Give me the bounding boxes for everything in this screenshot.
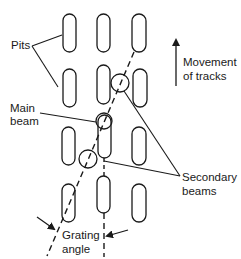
pits-leader-lower	[32, 46, 58, 87]
pit	[63, 69, 76, 107]
diagram-graphics	[0, 0, 241, 259]
pit	[132, 14, 146, 52]
secondary-beam-leader-lower	[104, 161, 180, 176]
grating-line-angled	[47, 52, 134, 256]
pit	[97, 176, 110, 213]
pit	[63, 14, 76, 52]
movement-label-line1: Movement	[183, 55, 237, 69]
grating-diagram: Pits Main beam Movement of tracks Second…	[0, 0, 241, 259]
pit	[62, 184, 75, 222]
grating-angle-arrow-left	[37, 217, 54, 229]
main-beam-label-line1: Main	[10, 101, 35, 115]
main-beam-leader	[40, 113, 96, 122]
pit	[132, 127, 146, 165]
secondary-beams-label-line2: beams	[182, 184, 217, 198]
grating-angle-arrow-right	[107, 230, 128, 236]
pit	[97, 65, 110, 104]
secondary-beam-lower-circle	[79, 150, 97, 168]
pit	[97, 14, 110, 52]
movement-label-line2: of tracks	[183, 69, 226, 83]
pits-leader-upper	[32, 35, 62, 46]
pits-label: Pits	[11, 38, 30, 52]
pit	[132, 184, 146, 222]
main-beam-label-line2: beam	[10, 114, 39, 128]
grating-angle-label-line1: Grating	[62, 228, 100, 242]
secondary-beams-label-line1: Secondary	[182, 170, 237, 184]
pit	[62, 127, 75, 165]
pit	[133, 69, 147, 107]
secondary-beam-upper-circle	[111, 74, 129, 92]
grating-angle-label-line2: angle	[62, 242, 90, 256]
leader-lines	[32, 35, 180, 176]
